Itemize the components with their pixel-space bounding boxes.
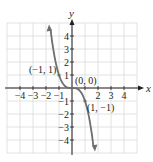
- y-tick-label: −4: [58, 135, 69, 146]
- y-tick-label: −3: [58, 122, 69, 133]
- x-tick-label: −2: [41, 90, 52, 101]
- data-point: [57, 73, 60, 76]
- data-point: [70, 86, 73, 89]
- x-axis-label: x: [145, 82, 151, 94]
- axes: [5, 19, 144, 155]
- point-label: (−1, 1): [29, 64, 56, 76]
- x-tick-label: 3: [109, 90, 114, 101]
- y-tick-label: 4: [64, 31, 69, 42]
- y-tick-label: −2: [58, 109, 69, 120]
- curve-arrow-down-icon: [92, 144, 98, 151]
- y-tick-label: 3: [64, 44, 69, 55]
- x-tick-label: 2: [96, 90, 101, 101]
- y-tick-label: 2: [64, 57, 69, 68]
- point-label: (0, 0): [75, 75, 97, 87]
- y-tick-label: −1: [58, 96, 69, 107]
- curve-arrow-up-icon: [47, 25, 53, 32]
- y-axis-arrow-icon: [70, 19, 75, 25]
- x-tick-label: 4: [122, 90, 127, 101]
- y-tick-label: 1: [64, 70, 69, 81]
- y-axis-label: y: [68, 7, 74, 19]
- x-tick-label: −3: [28, 90, 39, 101]
- point-label: (1, −1): [87, 102, 114, 114]
- function-graph: −4−3−2−12344321−1−2−3−4 (−1, 1)(0, 0)(1,…: [0, 0, 153, 162]
- x-axis-arrow-icon: [138, 86, 144, 91]
- x-tick-label: −4: [15, 90, 26, 101]
